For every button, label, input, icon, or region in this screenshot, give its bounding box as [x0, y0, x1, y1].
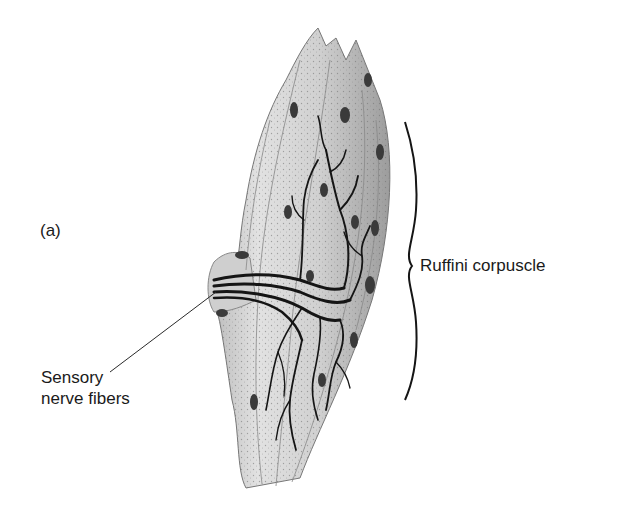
- sensory-label-line-1: Sensory: [41, 367, 130, 388]
- sensory-label-line-2: nerve fibers: [41, 388, 130, 409]
- ruffini-corpuscle-label: Ruffini corpuscle: [420, 255, 545, 276]
- panel-label: (a): [40, 220, 61, 241]
- ruffini-brace: [405, 122, 417, 400]
- sensory-nerve-fibers-label: Sensory nerve fibers: [41, 367, 130, 409]
- sensory-leader-line: [110, 292, 216, 372]
